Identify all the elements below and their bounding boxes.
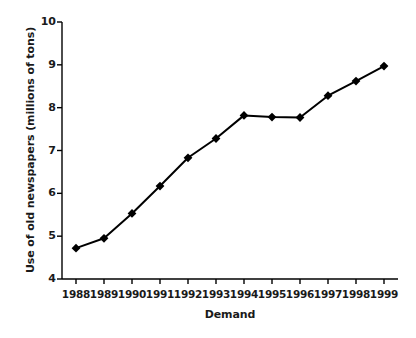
data-series-group (72, 62, 389, 253)
data-point-marker (352, 77, 361, 86)
x-axis-ticks (76, 279, 384, 284)
axes-group (57, 22, 398, 284)
data-point-marker (268, 113, 277, 122)
data-point-marker (380, 62, 389, 71)
chart-plot-area (0, 0, 416, 338)
data-point-marker (72, 244, 81, 253)
chart-container: Use of old newspapers (millions of tons)… (0, 0, 416, 338)
y-axis-ticks (57, 22, 62, 279)
series-line (76, 66, 384, 248)
